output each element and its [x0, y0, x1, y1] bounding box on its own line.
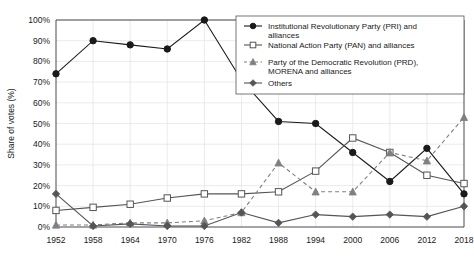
data-point-marker [350, 149, 356, 155]
data-point-marker [424, 145, 430, 151]
data-point-marker [461, 180, 467, 186]
data-point-marker [460, 113, 467, 120]
y-tick-label: 30% [33, 160, 50, 170]
x-tick-label: 1964 [121, 235, 140, 245]
series-line [56, 117, 464, 225]
y-tick-label: 0% [38, 222, 51, 232]
legend-item-1[interactable]: National Action Party (PAN) and alliance… [244, 41, 415, 50]
vote-share-line-chart: 0%10%20%30%40%50%60%70%80%90%100%1952195… [0, 0, 474, 261]
data-point-marker [312, 211, 319, 218]
legend-label: National Action Party (PAN) and alliance… [268, 41, 415, 50]
legend-label: Others [268, 79, 292, 88]
data-point-marker [275, 219, 282, 226]
x-tick-label: 2012 [417, 235, 436, 245]
y-tick-label: 100% [28, 15, 50, 25]
y-tick-label: 90% [33, 36, 50, 46]
y-tick-label: 60% [33, 98, 50, 108]
data-point-marker [387, 178, 393, 184]
y-tick-label: 10% [33, 201, 50, 211]
x-tick-label: 1976 [195, 235, 214, 245]
legend-label: Institutional Revolutionary Party (PRI) … [268, 22, 417, 31]
data-point-marker [349, 213, 356, 220]
data-point-marker [275, 118, 281, 124]
data-point-marker [424, 172, 430, 178]
x-tick-label: 2006 [380, 235, 399, 245]
data-point-marker [423, 213, 430, 220]
data-point-marker [201, 17, 207, 23]
data-point-marker [201, 191, 207, 197]
x-tick-label: 1958 [84, 235, 103, 245]
data-point-marker [90, 38, 96, 44]
data-point-marker [312, 120, 318, 126]
data-point-marker [461, 191, 467, 197]
chart-legend: Institutional Revolutionary Party (PRI) … [236, 16, 464, 94]
data-point-marker [250, 42, 256, 48]
data-point-marker [90, 204, 96, 210]
y-tick-label: 70% [33, 77, 50, 87]
data-point-marker [127, 201, 133, 207]
data-point-marker [164, 195, 170, 201]
legend-label-cont: alliances [268, 31, 299, 40]
x-tick-label: 2018 [455, 235, 474, 245]
data-point-marker [126, 220, 133, 227]
x-tick-label: 1970 [158, 235, 177, 245]
data-point-marker [127, 42, 133, 48]
data-point-marker [386, 211, 393, 218]
series-2 [52, 113, 467, 228]
y-axis-title: Share of votes (%) [6, 88, 16, 159]
y-tick-label: 80% [33, 56, 50, 66]
x-tick-label: 2000 [343, 235, 362, 245]
data-point-marker [275, 189, 281, 195]
chart-canvas: 0%10%20%30%40%50%60%70%80%90%100%1952195… [0, 0, 474, 261]
data-point-marker [312, 188, 319, 195]
data-point-marker [460, 203, 467, 210]
series-line [56, 194, 464, 226]
data-point-marker [350, 135, 356, 141]
data-point-marker [312, 168, 318, 174]
data-point-marker [53, 207, 59, 213]
y-tick-label: 40% [33, 139, 50, 149]
x-tick-label: 1988 [269, 235, 288, 245]
x-tick-label: 1994 [306, 235, 325, 245]
data-point-marker [53, 71, 59, 77]
data-point-marker [250, 23, 256, 29]
series-1 [53, 135, 467, 214]
x-tick-label: 1952 [47, 235, 66, 245]
data-point-marker [275, 159, 282, 166]
data-point-marker [238, 191, 244, 197]
y-tick-label: 20% [33, 181, 50, 191]
x-tick-label: 1982 [232, 235, 251, 245]
legend-label: Party of the Democratic Revolution (PRD)… [268, 58, 418, 67]
data-point-marker [164, 46, 170, 52]
y-tick-label: 50% [33, 119, 50, 129]
series-line [56, 138, 464, 210]
legend-label-cont: MORENA and alliances [268, 67, 352, 76]
